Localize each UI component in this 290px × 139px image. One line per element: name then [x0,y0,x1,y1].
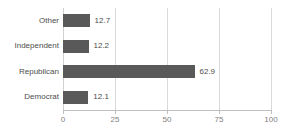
category-axis: Other Independent Republican Democrat [0,8,59,110]
category-label-democrat: Democrat [24,85,59,111]
x-tick-mark-75 [219,110,220,114]
x-tick-label-75: 75 [215,116,224,124]
x-tick-mark-25 [115,110,116,114]
x-tick-mark-0 [63,110,64,114]
bar-row[interactable]: 62.9 [63,59,272,85]
bar-row[interactable]: 12.2 [63,34,272,60]
bar-row[interactable]: 12.7 [63,8,272,34]
x-tick-mark-50 [167,110,168,114]
bar-chart: 12.7 12.2 62.9 12.1 Other Independent Re… [0,0,290,139]
bar-value-label: 12.1 [93,93,109,101]
x-tick-label-25: 25 [111,116,120,124]
x-tick-mark-100 [271,110,272,114]
category-label-other: Other [39,8,59,34]
bar-value-label: 62.9 [200,68,216,76]
bar-democrat[interactable] [63,91,88,104]
x-tick-label-50: 50 [163,116,172,124]
bar-value-label: 12.7 [95,17,111,25]
x-tick-label-100: 100 [264,116,277,124]
category-label-independent: Independent [15,34,60,60]
bars-layer: 12.7 12.2 62.9 12.1 [63,8,272,110]
bar-value-label: 12.2 [94,42,110,50]
category-label-republican: Republican [19,59,59,85]
x-tick-label-0: 0 [61,116,65,124]
bar-other[interactable] [63,14,90,27]
bar-independent[interactable] [63,40,89,53]
bar-row[interactable]: 12.1 [63,85,272,111]
plot-area: 12.7 12.2 62.9 12.1 [63,8,272,110]
bar-republican[interactable] [63,65,195,78]
